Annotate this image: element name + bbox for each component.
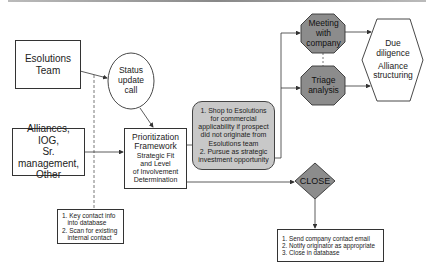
prioritization-sub: and Level	[140, 160, 170, 168]
triage-line: analysis	[308, 86, 339, 96]
prioritization-sub: Determination	[134, 176, 178, 184]
shop-pursue-box: 1. Shop to Esolutions for commercial app…	[192, 101, 275, 170]
key-contact-line: 1. Key contact info	[62, 212, 115, 219]
shop-line: 2. Pursue as strategic	[200, 148, 268, 156]
close-steps-box: 1. Send company contact email 2. Notify …	[277, 229, 384, 262]
arrow-esolutions-to-status	[80, 71, 107, 78]
close-label: CLOSE	[300, 176, 331, 186]
close-step-line: 3. Close in database	[282, 249, 339, 256]
arrow-to-meeting	[274, 33, 300, 158]
key-contact-line: into database	[62, 219, 106, 226]
key-contact-box: 1. Key contact info into database 2. Sca…	[57, 209, 124, 244]
prioritization-sub: Strategic Fit	[137, 152, 174, 160]
close-step-line: 1. Send company contact email	[282, 235, 370, 242]
key-contact-line: internal contact	[62, 234, 112, 241]
alliances-line: IOG,	[38, 135, 59, 147]
diligence-line: structuring	[373, 71, 413, 81]
key-contact-line: 2. Scan for existing	[62, 227, 117, 234]
esolutions-team-line: Team	[36, 65, 60, 77]
prioritization-title: Framework	[134, 142, 177, 152]
shop-line: investment opportunity	[198, 156, 268, 164]
status-update-call: Status update call	[108, 53, 154, 109]
shop-line: did not originate from	[201, 131, 267, 139]
prioritization-sub: of Involvement	[133, 168, 179, 176]
alliances-line: Alliances,	[27, 123, 70, 135]
close-step-line: 2. Notify originator as appropriate	[282, 242, 375, 249]
triage-analysis: Triage analysis	[301, 66, 346, 106]
shop-line: Esolutions team	[209, 140, 259, 148]
shop-line: 1. Shop to Esolutions	[200, 107, 266, 115]
due-diligence-alliance: Due diligence Alliance structuring	[364, 24, 422, 96]
alliances-box: Alliances, IOG, Sr. management, Other	[12, 128, 85, 176]
meeting-line: company	[306, 39, 341, 49]
prioritization-framework-box: Prioritization Framework Strategic Fit a…	[124, 128, 187, 189]
alliances-line: Sr. management,	[13, 146, 84, 169]
meeting-with-company: Meeting with company	[301, 14, 346, 54]
alliances-line: Other	[36, 169, 61, 181]
esolutions-team-box: Esolutions Team	[15, 40, 81, 89]
arrow-status-to-prioritization	[140, 108, 153, 127]
status-call-line: call	[125, 86, 138, 96]
shop-line: for commercial	[211, 115, 257, 123]
close-decision: CLOSE	[293, 173, 337, 189]
diligence-line: diligence	[376, 49, 410, 59]
esolutions-team-line: Esolutions	[25, 53, 71, 65]
shop-line: applicability if prospect	[198, 123, 268, 131]
